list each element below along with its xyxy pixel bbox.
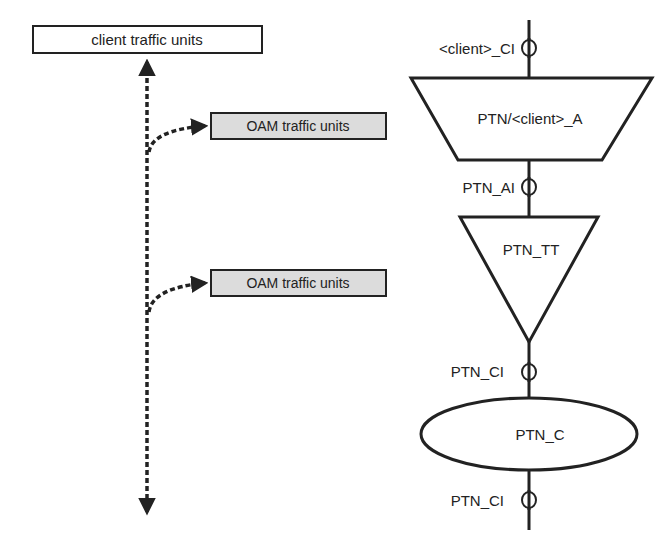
connection-function: PTN_C	[421, 398, 637, 470]
oam-traffic-units-box-2: OAM traffic units	[211, 270, 386, 296]
client-ci-label: <client>_CI	[439, 40, 515, 57]
ptn-ai-point: PTN_AI	[462, 177, 536, 197]
oam-traffic-units-label-2: OAM traffic units	[246, 275, 349, 291]
ptn-ci-point-lower: PTN_CI	[451, 490, 536, 510]
oam-traffic-units-label-1: OAM traffic units	[246, 118, 349, 134]
ptn-ci-point-upper: PTN_CI	[451, 362, 536, 382]
trail-termination-label: PTN_TT	[503, 241, 560, 258]
ptn-ai-label: PTN_AI	[462, 179, 515, 196]
adaptation-label: PTN/<client>_A	[477, 110, 582, 127]
adaptation-function: PTN/<client>_A	[411, 78, 652, 160]
client-traffic-units-label: client traffic units	[91, 31, 202, 48]
client-traffic-units-box: client traffic units	[33, 26, 262, 53]
oam-traffic-units-box-1: OAM traffic units	[211, 113, 386, 139]
client-ci-point: <client>_CI	[439, 38, 536, 58]
oam-branch-arrow-2	[149, 283, 205, 312]
connection-label: PTN_C	[515, 426, 564, 443]
oam-branch-arrow-1	[149, 126, 205, 152]
diagram-canvas: client traffic units OAM traffic units O…	[0, 0, 672, 548]
trail-termination-function: PTN_TT	[460, 217, 598, 342]
ptn-ci-label-lower: PTN_CI	[451, 492, 504, 509]
ptn-ci-label-upper: PTN_CI	[451, 363, 504, 380]
